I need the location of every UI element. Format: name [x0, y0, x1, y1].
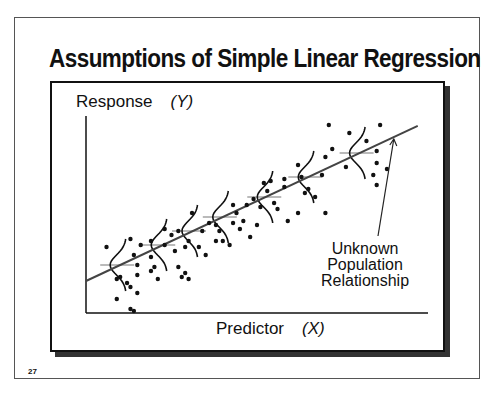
data-point — [156, 277, 160, 281]
data-point — [197, 245, 201, 249]
error-distribution — [288, 151, 322, 203]
data-point — [364, 139, 368, 143]
data-point — [183, 245, 187, 249]
data-point — [200, 229, 204, 233]
data-point — [275, 207, 279, 211]
data-point — [234, 211, 238, 215]
data-point — [262, 181, 266, 185]
data-point — [214, 239, 218, 243]
data-point — [375, 149, 379, 153]
data-point — [118, 275, 122, 279]
data-point — [371, 173, 375, 177]
data-point — [149, 239, 153, 243]
data-point — [231, 221, 235, 225]
data-point — [176, 265, 180, 269]
data-point — [132, 253, 136, 257]
data-point — [344, 165, 348, 169]
page-number: 27 — [28, 367, 37, 376]
data-point — [265, 189, 269, 193]
data-point — [125, 281, 129, 285]
data-point — [149, 255, 153, 259]
data-point — [217, 229, 221, 233]
data-point — [135, 263, 139, 267]
data-point — [330, 147, 334, 151]
data-point — [169, 233, 173, 237]
data-point — [128, 285, 132, 289]
data-point — [227, 243, 231, 247]
data-point — [282, 177, 286, 181]
data-point — [303, 191, 307, 195]
data-point — [162, 243, 166, 247]
data-point — [327, 123, 331, 127]
data-point — [176, 229, 180, 233]
data-point — [296, 163, 300, 167]
data-point — [128, 237, 132, 241]
data-point — [135, 273, 139, 277]
data-point — [115, 297, 119, 301]
data-point — [320, 173, 324, 177]
data-point — [207, 221, 211, 225]
data-point — [221, 239, 225, 243]
data-point — [282, 185, 286, 189]
data-point — [128, 307, 132, 311]
data-point — [139, 243, 143, 247]
data-point — [149, 269, 153, 273]
data-point — [248, 235, 252, 239]
data-point — [104, 245, 108, 249]
data-point — [183, 271, 187, 275]
error-distribution — [141, 219, 175, 271]
data-point — [258, 205, 262, 209]
data-point — [323, 211, 327, 215]
data-point — [245, 203, 249, 207]
data-point — [173, 249, 177, 253]
data-point — [296, 211, 300, 215]
data-point — [347, 131, 351, 135]
data-point — [268, 179, 272, 183]
data-point — [231, 203, 235, 207]
data-point — [272, 201, 276, 205]
data-point — [180, 275, 184, 279]
data-point — [313, 195, 317, 199]
data-point — [190, 211, 194, 215]
regression-diagram — [0, 0, 494, 394]
data-point — [214, 223, 218, 227]
population-regression-line — [86, 126, 418, 281]
data-point — [162, 227, 166, 231]
data-point — [306, 187, 310, 191]
data-point — [375, 161, 379, 165]
data-point — [299, 175, 303, 179]
data-point — [186, 277, 190, 281]
error-distribution — [203, 191, 237, 243]
data-point — [241, 219, 245, 223]
data-point — [323, 155, 327, 159]
data-point — [204, 253, 208, 257]
annotation-arrow — [378, 139, 394, 236]
data-point — [152, 265, 156, 269]
data-point — [378, 123, 382, 127]
data-point — [251, 197, 255, 201]
data-point — [238, 227, 242, 231]
data-point — [255, 223, 259, 227]
data-point — [375, 183, 379, 187]
error-distribution — [340, 127, 374, 179]
data-point — [135, 291, 139, 295]
data-point — [286, 219, 290, 223]
data-point — [186, 239, 190, 243]
